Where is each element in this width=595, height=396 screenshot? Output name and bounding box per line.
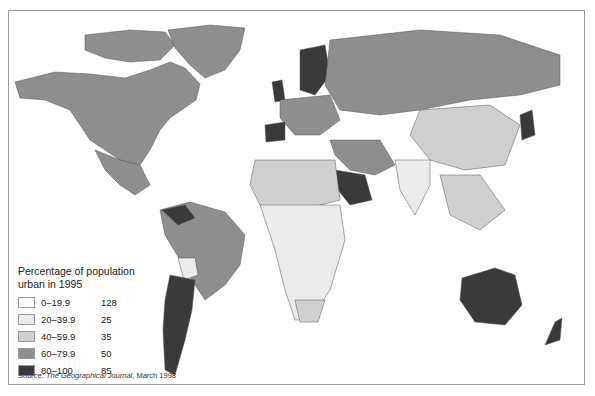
legend-count: 50: [101, 348, 112, 359]
region-north-africa: [250, 160, 340, 210]
legend-range: 60–79.9: [41, 348, 101, 359]
legend-row: 20–39.9 25: [18, 311, 178, 328]
region-canadian-arctic: [85, 30, 175, 62]
legend-title-line1: Percentage of population: [18, 265, 178, 278]
region-south-africa: [295, 300, 325, 322]
legend-range: 0–19.9: [41, 297, 101, 308]
legend-swatch: [18, 331, 35, 342]
source-suffix: , March 1998: [132, 371, 176, 380]
legend-row: 40–59.9 35: [18, 328, 178, 345]
legend-range: 20–39.9: [41, 314, 101, 325]
source-citation: Source: The Geographical Journal, March …: [18, 371, 176, 380]
legend: Percentage of population urban in 1995 0…: [18, 265, 178, 379]
region-india: [395, 160, 430, 215]
region-middle-east: [330, 140, 395, 175]
region-japan: [520, 110, 535, 140]
region-australia: [460, 268, 522, 325]
source-title: The Geographical Journal: [46, 371, 132, 380]
legend-title-line2: urban in 1995: [18, 278, 178, 291]
legend-range: 40–59.9: [41, 331, 101, 342]
source-prefix: Source:: [18, 371, 46, 380]
legend-swatch: [18, 297, 35, 308]
region-russia: [325, 30, 560, 115]
region-scandinavia: [300, 45, 330, 95]
region-southeast-asia: [440, 175, 505, 230]
region-uk: [272, 80, 285, 102]
legend-swatch: [18, 348, 35, 359]
legend-count: 35: [101, 331, 112, 342]
legend-count: 25: [101, 314, 112, 325]
legend-row: 60–79.9 50: [18, 345, 178, 362]
region-spain: [265, 122, 285, 142]
legend-swatch: [18, 314, 35, 325]
region-saudi-arabia: [335, 170, 372, 205]
region-north-america: [15, 62, 200, 165]
legend-row: 0–19.9 128: [18, 294, 178, 311]
region-new-zealand: [545, 318, 562, 345]
region-europe: [280, 95, 340, 135]
legend-count: 128: [101, 297, 117, 308]
